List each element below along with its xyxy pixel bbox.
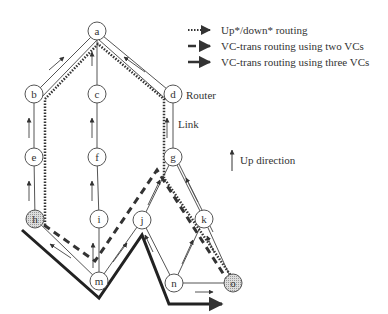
- svg-text:c: c: [95, 88, 100, 100]
- router-node-g: g: [164, 148, 182, 166]
- router-node-d: d: [164, 85, 182, 103]
- router-node-i: i: [90, 210, 108, 228]
- svg-text:h: h: [32, 213, 38, 225]
- router-node-m: m: [90, 272, 108, 290]
- svg-text:b: b: [31, 88, 37, 100]
- network-diagram: abcdefghijkmno Router Link Up*/down* rou…: [0, 0, 388, 314]
- svg-text:m: m: [95, 275, 104, 287]
- svg-text:j: j: [139, 214, 143, 226]
- legend-up-direction: Up direction: [240, 154, 296, 166]
- router-node-a: a: [88, 22, 106, 40]
- link-label: Link: [178, 118, 199, 130]
- router-node-f: f: [88, 148, 106, 166]
- router-node-n: n: [165, 274, 183, 292]
- svg-text:a: a: [95, 25, 100, 37]
- router-node-k: k: [195, 210, 213, 228]
- legend-two-vcs: VC-trans routing using two VCs: [221, 40, 364, 52]
- svg-text:o: o: [230, 277, 236, 289]
- svg-text:f: f: [95, 151, 99, 163]
- svg-text:g: g: [170, 151, 176, 163]
- router-node-e: e: [25, 148, 43, 166]
- svg-text:e: e: [32, 151, 37, 163]
- svg-text:d: d: [170, 88, 176, 100]
- router-node-o: o: [224, 274, 242, 292]
- router-node-h: h: [26, 210, 44, 228]
- router-node-c: c: [88, 85, 106, 103]
- legend-updown: Up*/down* routing: [221, 24, 308, 36]
- svg-text:i: i: [97, 213, 100, 225]
- router-node-b: b: [25, 85, 43, 103]
- svg-text:k: k: [201, 213, 207, 225]
- legend-three-vcs: VC-trans routing using three VCs: [221, 56, 369, 68]
- svg-text:n: n: [171, 277, 177, 289]
- router-label: Router: [186, 89, 216, 101]
- router-node-j: j: [133, 211, 151, 229]
